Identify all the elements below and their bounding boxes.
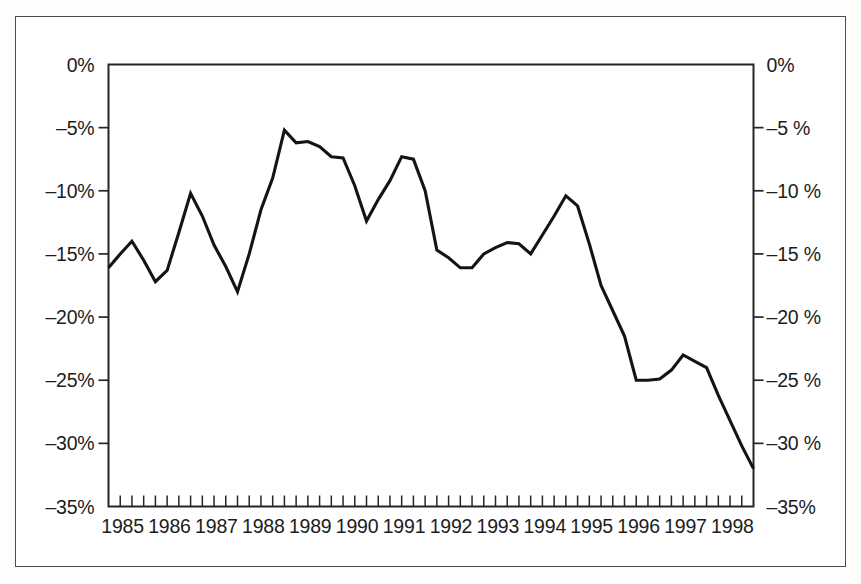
y-axis-right-tick-label: –15 % <box>767 243 821 265</box>
line-chart-figure: 0%–5%–10%–15%–20%–25%–30%–35% 0%–5 %–10 … <box>0 0 861 584</box>
x-axis-tick-label: 1996 <box>617 515 660 537</box>
series-line-series-1 <box>109 130 754 468</box>
x-axis-tick-label: 1993 <box>477 515 520 537</box>
x-axis-tick-label: 1987 <box>195 515 238 537</box>
x-axis-tick-label: 1985 <box>101 515 144 537</box>
x-axis-tick-label: 1986 <box>148 515 191 537</box>
x-axis-tick-label: 1994 <box>523 515 566 537</box>
x-axis-labels: 1985198619871988198919901991199219931994… <box>101 515 753 537</box>
y-axis-right-tick-label: –20 % <box>767 306 821 328</box>
y-axis-right-tick-label: –35% <box>767 496 816 518</box>
plot-border <box>109 65 754 507</box>
y-axis-left-tick-label: –15% <box>45 243 94 265</box>
x-axis-tick-label: 1990 <box>336 515 379 537</box>
y-axis-right-ticks <box>754 128 764 444</box>
y-axis-right-tick-label: –10 % <box>767 180 821 202</box>
y-axis-right-tick-label: –30 % <box>767 432 821 454</box>
y-axis-right-labels: 0%–5 %–10 %–15 %–20 %–25 %–30 %–35% <box>767 54 821 518</box>
x-axis-ticks <box>120 496 742 507</box>
y-axis-left-labels: 0%–5%–10%–15%–20%–25%–30%–35% <box>45 54 94 518</box>
x-axis-tick-label: 1997 <box>664 515 707 537</box>
data-series-group <box>109 130 754 468</box>
x-axis-tick-label: 1991 <box>383 515 426 537</box>
plot-frame <box>109 65 754 507</box>
x-axis-tick-label: 1998 <box>711 515 754 537</box>
y-axis-left-tick-label: –10% <box>45 180 94 202</box>
chart-canvas: 0%–5%–10%–15%–20%–25%–30%–35% 0%–5 %–10 … <box>0 0 861 584</box>
x-axis-tick-label: 1989 <box>289 515 332 537</box>
x-axis-tick-label: 1988 <box>242 515 285 537</box>
y-axis-left-tick-label: –35% <box>45 496 94 518</box>
y-axis-left-tick-label: –30% <box>45 432 94 454</box>
y-axis-left-tick-label: –5% <box>56 117 94 139</box>
y-axis-left-ticks <box>99 128 109 444</box>
y-axis-right-tick-label: –5 % <box>767 117 811 139</box>
x-axis-tick-label: 1995 <box>570 515 613 537</box>
y-axis-left-tick-label: –25% <box>45 369 94 391</box>
y-axis-left-tick-label: 0% <box>67 54 95 76</box>
y-axis-left-tick-label: –20% <box>45 306 94 328</box>
y-axis-right-tick-label: –25 % <box>767 369 821 391</box>
page-root: 0%–5%–10%–15%–20%–25%–30%–35% 0%–5 %–10 … <box>0 0 861 584</box>
x-axis-tick-label: 1992 <box>430 515 473 537</box>
y-axis-right-tick-label: 0% <box>767 54 795 76</box>
